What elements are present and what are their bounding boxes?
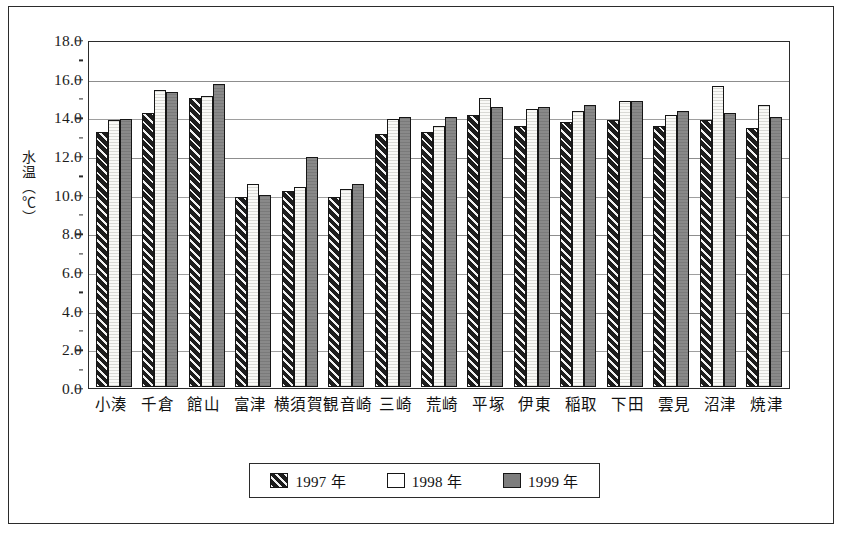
bar [120, 119, 132, 387]
bar [514, 126, 526, 386]
bar-group [137, 42, 183, 387]
x-tick-label: 小湊 [88, 392, 134, 418]
bar [467, 115, 479, 387]
x-tick-label: 富津 [227, 392, 273, 418]
y-tick-mark [76, 156, 83, 157]
legend-swatch-icon [503, 473, 521, 488]
bar-group [230, 42, 276, 387]
x-tick-label: 千倉 [134, 392, 180, 418]
bar [201, 96, 213, 387]
bar [770, 117, 782, 387]
y-tick-minor-mark [79, 292, 83, 293]
plot-wrapper [88, 41, 790, 389]
bar [445, 117, 457, 387]
bar [607, 120, 619, 386]
legend-label: 1997 年 [295, 470, 346, 491]
y-tick-mark [76, 195, 83, 196]
bar [526, 109, 538, 387]
bar [619, 101, 631, 386]
legend-swatch-icon [270, 473, 288, 488]
bar-group [183, 42, 229, 387]
bar [294, 187, 306, 386]
bar [154, 90, 166, 387]
bar [282, 191, 294, 386]
bar-group [648, 42, 694, 387]
bar [387, 119, 399, 387]
bar-group [91, 42, 137, 387]
legend-item: 1999 年 [503, 470, 579, 491]
y-tick-minor-mark [79, 98, 83, 99]
x-tick-label: 下田 [605, 392, 651, 418]
x-tick-label: 平塚 [465, 392, 511, 418]
x-tick-label: 荒崎 [419, 392, 465, 418]
legend-swatch-icon [387, 473, 405, 488]
x-tick-label: 館山 [181, 392, 227, 418]
bar [538, 107, 550, 386]
y-axis-ticks: 0.02.04.06.08.010.012.014.016.018.0 [0, 41, 82, 389]
bar [421, 132, 433, 387]
y-tick-minor-mark [79, 214, 83, 215]
y-tick-mark [76, 388, 83, 389]
bar-group [416, 42, 462, 387]
bar [108, 120, 120, 386]
legend-item: 1997 年 [270, 470, 346, 491]
y-tick-minor-mark [79, 369, 83, 370]
bar [653, 126, 665, 386]
bar [572, 111, 584, 387]
bar [712, 86, 724, 386]
bar [560, 122, 572, 386]
bar [259, 195, 271, 386]
bar [665, 115, 677, 387]
bar [700, 120, 712, 386]
bar [375, 134, 387, 387]
bar [352, 184, 364, 387]
bar-groups [91, 42, 788, 387]
bar-group [741, 42, 787, 387]
bar-group [695, 42, 741, 387]
x-tick-label: 観音崎 [323, 392, 373, 418]
bar [328, 197, 340, 386]
x-tick-label: 横須賀 [274, 392, 324, 418]
bar [479, 98, 491, 387]
bar [213, 84, 225, 386]
legend-label: 1999 年 [528, 470, 579, 491]
y-tick-minor-mark [79, 330, 83, 331]
bar [491, 107, 503, 386]
bar [584, 105, 596, 386]
x-tick-label: 焼津 [744, 392, 790, 418]
x-tick-label: 沼津 [697, 392, 743, 418]
bar-group [323, 42, 369, 387]
y-tick-minor-mark [79, 253, 83, 254]
plot-area [88, 41, 790, 389]
y-tick-minor-mark [79, 137, 83, 138]
bar [247, 184, 259, 387]
y-tick-mark [76, 272, 83, 273]
y-tick-mark [76, 79, 83, 80]
bar [235, 197, 247, 386]
bar-group [555, 42, 601, 387]
y-tick-mark [76, 350, 83, 351]
bar [340, 189, 352, 386]
legend-label: 1998 年 [412, 470, 463, 491]
bar [724, 113, 736, 387]
bar [433, 126, 445, 386]
bar-group [602, 42, 648, 387]
bar [631, 101, 643, 386]
bar [677, 111, 689, 387]
bar-group [509, 42, 555, 387]
y-tick-mark [76, 311, 83, 312]
x-tick-label: 稲取 [558, 392, 604, 418]
bar-group [462, 42, 508, 387]
x-tick-label: 雲見 [651, 392, 697, 418]
y-tick-minor-mark [79, 60, 83, 61]
y-tick-mark [76, 40, 83, 41]
bar [306, 157, 318, 387]
y-tick-minor-mark [79, 176, 83, 177]
chart-legend: 1997 年1998 年1999 年 [249, 463, 600, 498]
bar [746, 128, 758, 386]
bar [758, 105, 770, 386]
bar [399, 117, 411, 387]
y-tick-mark [76, 234, 83, 235]
y-tick-mark [76, 118, 83, 119]
bar-group [369, 42, 415, 387]
